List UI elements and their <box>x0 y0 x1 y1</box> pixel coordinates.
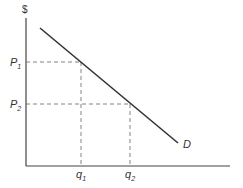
demand-chart: $ P1 P2 q1 q2 D <box>0 0 243 188</box>
q2-label: q2 <box>125 168 135 182</box>
p2-label: P2 <box>10 98 21 112</box>
demand-label: D <box>183 138 191 150</box>
q1-label: q1 <box>76 168 86 182</box>
demand-curve <box>40 28 178 143</box>
p1-label: P1 <box>10 56 21 70</box>
y-axis-label: $ <box>22 4 28 15</box>
